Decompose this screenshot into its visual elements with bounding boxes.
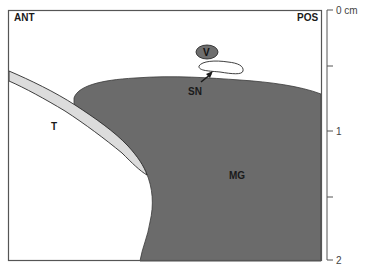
pos-label: POS	[297, 12, 318, 23]
medial-gastrocnemius-region	[74, 77, 321, 261]
vessel-label: V	[203, 47, 210, 58]
muscle-label: MG	[229, 170, 245, 181]
tendon-label: T	[51, 121, 57, 132]
scale-label-0: 0 cm	[336, 5, 358, 16]
sural-nerve-label: SN	[188, 86, 202, 97]
ultrasound-schematic: 0 cm 1 2 ANT POS V SN T MG	[0, 0, 371, 271]
scale-bar: 0 cm 1 2	[327, 5, 358, 266]
scale-label-2: 2	[336, 255, 342, 266]
ant-label: ANT	[14, 12, 35, 23]
scale-label-1: 1	[336, 126, 342, 137]
sural-nerve-shape	[199, 61, 243, 74]
